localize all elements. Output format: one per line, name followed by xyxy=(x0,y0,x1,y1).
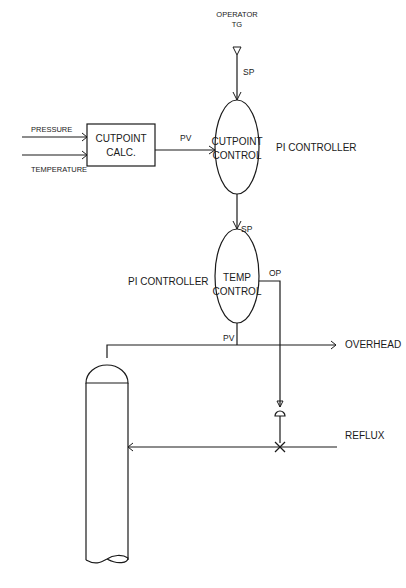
cutpoint-pi-controller-label: PI CONTROLLER xyxy=(276,142,357,153)
cutpoint-control-ellipse xyxy=(215,100,259,194)
cutpoint-control-line2: CONTROL xyxy=(213,150,262,161)
sp-temp-label: SP xyxy=(241,224,253,234)
operator-tg-label: TG xyxy=(232,20,243,29)
column-break-line xyxy=(86,555,128,563)
reflux-label: REFLUX xyxy=(345,430,385,441)
temperature-label: TEMPERATURE xyxy=(31,165,87,174)
overhead-label: OVERHEAD xyxy=(345,339,401,350)
overhead-line xyxy=(107,345,336,358)
control-diagram: OPERATOR TG SP PRESSURE TEMPERATURE CUTP… xyxy=(0,0,406,588)
distillation-column xyxy=(86,365,128,563)
pressure-label: PRESSURE xyxy=(31,125,72,134)
pv-temp-label: PV xyxy=(223,333,235,343)
pv-calc-label: PV xyxy=(180,133,192,143)
temp-control-line1: TEMP xyxy=(223,272,251,283)
op-label: OP xyxy=(269,268,282,278)
cutpoint-control-line1: CUTPOINT xyxy=(211,136,262,147)
operator-setpoint-marker xyxy=(233,47,241,55)
valve-actuator-icon xyxy=(275,411,285,416)
operator-label: OPERATOR xyxy=(216,10,258,19)
op-line xyxy=(259,281,280,407)
cutpoint-calc-box xyxy=(87,124,155,166)
column-dome xyxy=(86,365,128,383)
sp-top-label: SP xyxy=(243,67,255,77)
cutpoint-calc-line1: CUTPOINT xyxy=(95,133,146,144)
temp-pi-controller-label: PI CONTROLLER xyxy=(128,276,209,287)
cutpoint-calc-line2: CALC. xyxy=(106,147,135,158)
temp-control-line2: CONTROL xyxy=(213,286,262,297)
